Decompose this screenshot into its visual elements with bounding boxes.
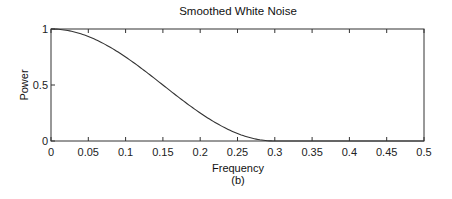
figure-sublabel: (b) (231, 174, 244, 186)
x-tick-label: 0.1 (118, 146, 133, 158)
x-tick-label: 0.25 (227, 146, 248, 158)
x-tick-label: 0.35 (301, 146, 322, 158)
x-tick-label: 0.4 (342, 146, 357, 158)
y-tick-label: 1 (42, 23, 48, 35)
x-tick-label: 0 (48, 146, 54, 158)
smoothed-white-noise-chart: Smoothed White Noise 00.050.10.150.20.25… (0, 0, 452, 199)
y-tick-label: 0 (42, 135, 48, 147)
x-axis-ticks: 00.050.10.150.20.250.30.350.40.450.5 (48, 29, 432, 158)
x-tick-label: 0.45 (376, 146, 397, 158)
y-tick-label: 0.5 (33, 79, 48, 91)
x-tick-label: 0.5 (416, 146, 431, 158)
x-tick-label: 0.15 (152, 146, 173, 158)
x-tick-label: 0.05 (78, 146, 99, 158)
chart-title: Smoothed White Noise (179, 5, 297, 17)
x-axis-label: Frequency (212, 162, 264, 174)
x-tick-label: 0.2 (193, 146, 208, 158)
power-spectrum-line (51, 29, 424, 141)
y-axis-label: Power (18, 69, 30, 101)
y-axis-ticks: 00.51 (33, 23, 55, 147)
x-tick-label: 0.3 (267, 146, 282, 158)
